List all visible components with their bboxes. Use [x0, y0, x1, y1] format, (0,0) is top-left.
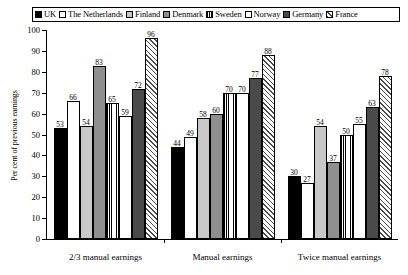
y-axis-tick-label: 20: [32, 193, 41, 201]
bar-value-label: 63: [368, 100, 376, 108]
bar-slot: 55: [353, 30, 366, 239]
y-axis-tick: [42, 30, 46, 31]
bar[interactable]: 55: [353, 124, 366, 239]
x-axis-tick: [164, 239, 165, 243]
bar-slot: 70: [236, 30, 249, 239]
legend-swatch-icon: [245, 11, 252, 18]
bar[interactable]: 65: [106, 103, 119, 239]
legend-item-finland: Finland: [126, 10, 160, 19]
bar[interactable]: 50: [340, 135, 353, 240]
bar-value-label: 96: [147, 31, 155, 39]
bar-slot: 66: [67, 30, 80, 239]
bar-value-label: 44: [173, 140, 181, 148]
bar[interactable]: 53: [54, 128, 67, 239]
bar[interactable]: 70: [223, 93, 236, 239]
bar-slot: 60: [210, 30, 223, 239]
bar[interactable]: 96: [145, 38, 158, 239]
bar-value-label: 54: [82, 119, 90, 127]
x-axis-category-label: Twice manual earnings: [281, 252, 398, 266]
bar[interactable]: 66: [67, 101, 80, 239]
y-axis-tick: [42, 114, 46, 115]
bar[interactable]: 63: [366, 107, 379, 239]
bar-slot: 96: [145, 30, 158, 239]
y-axis-tick: [42, 239, 46, 240]
bar[interactable]: 37: [327, 162, 340, 239]
y-axis-tick: [42, 93, 46, 94]
legend-item-germany: Germany: [283, 10, 323, 19]
bar[interactable]: 49: [184, 137, 197, 239]
legend-item-label: Denmark: [172, 10, 203, 19]
bar-group: 3027543750556378: [281, 30, 398, 239]
bar-value-label: 88: [264, 48, 272, 56]
x-axis-category-label: 2/3 manual earnings: [47, 252, 164, 266]
legend-swatch-icon: [35, 11, 42, 18]
bar[interactable]: 60: [210, 114, 223, 239]
bar-slot: 54: [80, 30, 93, 239]
bar[interactable]: 70: [236, 93, 249, 239]
legend-item-label: Sweden: [215, 10, 241, 19]
legend-swatch-icon: [283, 11, 290, 18]
legend-item-france: France: [326, 10, 358, 19]
bar-value-label: 27: [303, 176, 311, 184]
legend-item-denmark: Denmark: [163, 10, 203, 19]
bar-slot: 58: [197, 30, 210, 239]
legend-item-the-netherlands: The Netherlands: [59, 10, 123, 19]
legend-item-label: France: [335, 10, 358, 19]
bar-group: 5366548365597296: [47, 30, 164, 239]
bar[interactable]: 88: [262, 55, 275, 239]
y-axis-tick-label: 70: [32, 89, 41, 97]
bar[interactable]: 44: [171, 147, 184, 239]
bar-slot: 77: [249, 30, 262, 239]
y-axis-tick-label: 40: [32, 151, 41, 159]
bar-value-label: 53: [56, 121, 64, 129]
bar[interactable]: 59: [119, 116, 132, 239]
bar-slot: 37: [327, 30, 340, 239]
bar[interactable]: 30: [288, 176, 301, 239]
x-axis-category-labels: 2/3 manual earningsManual earningsTwice …: [47, 252, 398, 266]
bar-value-label: 30: [290, 169, 298, 177]
bar-slot: 44: [171, 30, 184, 239]
plot-area: 0102030405060708090100 53665483655972964…: [46, 30, 398, 240]
bar[interactable]: 54: [80, 126, 93, 239]
y-axis-tick: [42, 51, 46, 52]
bar-value-label: 60: [212, 107, 220, 115]
bar-value-label: 55: [355, 117, 363, 125]
bar[interactable]: 54: [314, 126, 327, 239]
bar-slot: 30: [288, 30, 301, 239]
bar-value-label: 70: [238, 86, 246, 94]
bar[interactable]: 27: [301, 183, 314, 239]
bar[interactable]: 77: [249, 78, 262, 239]
legend-swatch-icon: [59, 11, 66, 18]
y-axis-tick: [42, 197, 46, 198]
y-axis-tick: [42, 72, 46, 73]
y-axis-tick-label: 100: [27, 26, 40, 34]
y-axis-tick-label: 0: [36, 235, 40, 243]
bar[interactable]: 72: [132, 89, 145, 239]
bar-chart: UKThe NetherlandsFinlandDenmarkSwedenNor…: [0, 0, 408, 275]
y-axis-tick: [42, 176, 46, 177]
legend-swatch-icon: [206, 11, 213, 18]
bar-slot: 83: [93, 30, 106, 239]
y-axis-tick-label: 10: [32, 214, 41, 222]
bar[interactable]: 58: [197, 118, 210, 239]
bar-value-label: 83: [95, 59, 103, 67]
legend-item-norway: Norway: [245, 10, 281, 19]
legend-item-label: Finland: [135, 10, 160, 19]
bar-slot: 88: [262, 30, 275, 239]
bar-slot: 70: [223, 30, 236, 239]
bar-value-label: 49: [186, 130, 194, 138]
y-axis-tick-label: 50: [32, 131, 41, 139]
bar-value-label: 54: [316, 119, 324, 127]
bar[interactable]: 83: [93, 66, 106, 239]
bar-value-label: 37: [329, 155, 337, 163]
y-axis-tick-label: 60: [32, 110, 41, 118]
bar[interactable]: 78: [379, 76, 392, 239]
legend-swatch-icon: [326, 11, 333, 18]
y-axis-title-text: Per cent of previous earnings: [10, 90, 19, 180]
bar-value-label: 66: [69, 94, 77, 102]
legend-item-sweden: Sweden: [206, 10, 241, 19]
bar-value-label: 50: [342, 128, 350, 136]
bar-value-label: 77: [251, 71, 259, 79]
bar-slot: 59: [119, 30, 132, 239]
x-axis-tick: [281, 239, 282, 243]
